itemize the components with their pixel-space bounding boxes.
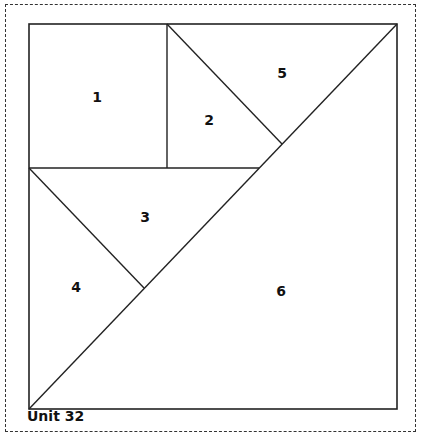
piece-label-6: 6: [276, 283, 286, 299]
piece-label-5: 5: [277, 65, 287, 81]
main-diagonal: [29, 24, 397, 409]
piece-label-1: 1: [92, 89, 102, 105]
upper-diagonal: [167, 24, 282, 144]
piece-label-4: 4: [71, 279, 81, 295]
lower-diagonal: [29, 168, 144, 288]
quilt-block-diagram: [0, 0, 422, 440]
unit-title: Unit 32: [27, 408, 84, 424]
piece-label-3: 3: [140, 209, 150, 225]
piece-label-2: 2: [204, 112, 214, 128]
